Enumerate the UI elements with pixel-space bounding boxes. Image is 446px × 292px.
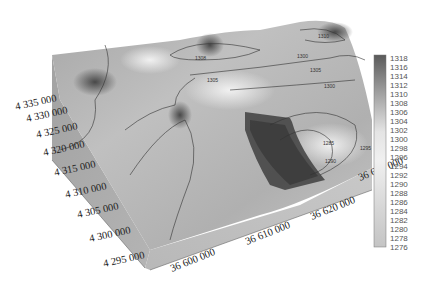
- colorbar-tick: 1300: [390, 135, 408, 144]
- contour-label: 1295: [360, 145, 371, 151]
- colorbar-tick: 1316: [390, 63, 408, 72]
- colorbar-ticks: 1318 1316 1314 1312 1310 1308 1306 1304 …: [390, 54, 408, 252]
- colorbar-tick: 1310: [390, 90, 408, 99]
- colorbar-tick: 1314: [390, 72, 408, 81]
- contour-label: 1300: [324, 83, 335, 89]
- colorbar-tick: 1302: [390, 126, 408, 135]
- colorbar: 1318 1316 1314 1312 1310 1308 1306 1304 …: [374, 54, 408, 252]
- contour-label: 1308: [195, 55, 206, 61]
- colorbar-tick: 1284: [390, 207, 408, 216]
- colorbar-tick: 1312: [390, 81, 408, 90]
- colorbar-tick: 1298: [390, 144, 408, 153]
- colorbar-tick: 1276: [390, 243, 408, 252]
- contour-label: 1310: [318, 33, 329, 39]
- contour-label: 1285: [323, 140, 334, 146]
- colorbar-tick: 1282: [390, 216, 408, 225]
- surface-plot: 1308 1310 1300 1305 1300 1305 1285 1290 …: [0, 0, 446, 292]
- contour-label: 1300: [297, 53, 308, 59]
- colorbar-tick: 1294: [390, 162, 408, 171]
- contour-label: 1290: [325, 158, 336, 164]
- colorbar-tick: 1286: [390, 198, 408, 207]
- colorbar-tick: 1318: [390, 54, 408, 63]
- colorbar-tick: 1290: [390, 180, 408, 189]
- colorbar-tick: 1296: [390, 153, 408, 162]
- colorbar-tick: 1292: [390, 171, 408, 180]
- contour-label: 1305: [310, 67, 321, 73]
- colorbar-tick: 1278: [390, 234, 408, 243]
- colorbar-tick: 1306: [390, 108, 408, 117]
- colorbar-tick: 1288: [390, 189, 408, 198]
- colorbar-tick: 1280: [390, 225, 408, 234]
- y-tick-label: 4 295 000: [102, 249, 145, 268]
- contour-label: 1305: [207, 77, 218, 83]
- colorbar-tick: 1304: [390, 117, 408, 126]
- colorbar-tick: 1308: [390, 99, 408, 108]
